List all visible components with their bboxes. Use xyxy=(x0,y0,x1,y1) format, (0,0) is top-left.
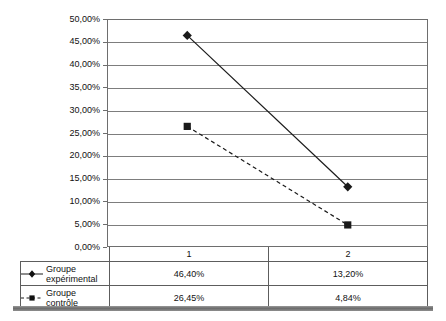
legend-solid-diamond-icon xyxy=(21,268,43,280)
y-axis-tick-label: 45,00% xyxy=(22,37,100,46)
data-table: 1 2 Groupeexpérimental 46,4 xyxy=(20,247,428,310)
legend-item-groupe-experimental[interactable]: Groupeexpérimental xyxy=(21,262,110,286)
legend-label-line1: Groupe xyxy=(46,264,76,274)
page-edge-artifact xyxy=(13,306,433,311)
series-line-1 xyxy=(187,35,348,186)
legend-label-groupe-experimental: Groupeexpérimental xyxy=(46,264,98,284)
y-axis-tick-label: 10,00% xyxy=(22,197,100,206)
series-layer xyxy=(107,19,428,247)
y-axis-tick-label: 15,00% xyxy=(22,174,100,183)
y-axis-tick-label: 50,00% xyxy=(22,15,100,24)
y-axis-tick-label: 40,00% xyxy=(22,60,100,69)
y-axis-tick-label: 30,00% xyxy=(22,106,100,115)
cell-experimental-2: 13,20% xyxy=(269,262,428,286)
y-axis-tick-label: 25,00% xyxy=(22,129,100,138)
legend-dashed-square-icon xyxy=(21,292,43,304)
chart-figure: 50,00%45,00%40,00%35,00%30,00%25,00%20,0… xyxy=(0,0,446,321)
column-header-1: 1 xyxy=(110,247,269,262)
y-axis-tick-label: 5,00% xyxy=(22,220,100,229)
legend-label-line2: expérimental xyxy=(46,274,98,284)
cell-experimental-1: 46,40% xyxy=(110,262,269,286)
column-header-2: 2 xyxy=(269,247,428,262)
data-point-marker xyxy=(344,221,351,228)
y-axis-tick-label: 20,00% xyxy=(22,151,100,160)
legend-label-groupe-controle: Groupecontrôle xyxy=(46,288,78,308)
table-header-row: 1 2 xyxy=(21,247,428,262)
series-line-2 xyxy=(187,126,348,225)
legend-label-line1: Groupe xyxy=(46,288,76,298)
y-axis-tick-label: 35,00% xyxy=(22,83,100,92)
data-point-marker xyxy=(184,123,191,130)
table-corner-cell xyxy=(21,247,110,262)
table-row: Groupeexpérimental 46,40% 13,20% xyxy=(21,262,428,286)
